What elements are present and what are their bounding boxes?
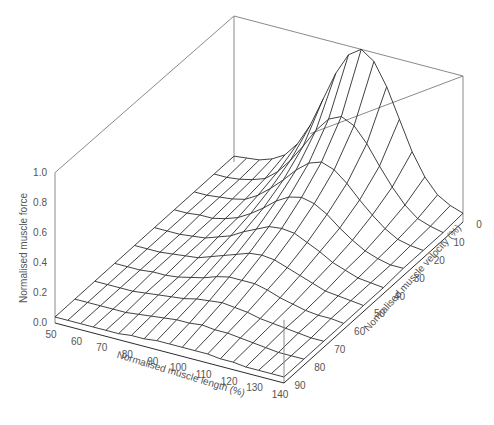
z-tick-label: 0.8: [33, 197, 47, 208]
y-tick-label: 0: [476, 219, 482, 230]
mesh-line-velocity: [174, 197, 403, 268]
mesh-line-length: [182, 49, 361, 347]
x-tick-label: 140: [272, 389, 289, 400]
mesh-line-length: [80, 160, 259, 324]
mesh-line-velocity: [214, 117, 443, 233]
frame-edge: [234, 16, 463, 76]
mesh-line-length: [195, 61, 374, 350]
mesh-line-velocity: [154, 227, 383, 288]
z-tick-label: 0.6: [33, 227, 47, 238]
mesh-line-length: [106, 155, 285, 330]
mesh-line-velocity: [234, 49, 463, 213]
frame-edge: [55, 16, 234, 173]
z-tick-label: 0.4: [33, 257, 47, 268]
z-axis-title: Normalised muscle force: [18, 193, 29, 303]
mesh-line-length: [157, 73, 336, 340]
mesh-line-length: [170, 55, 349, 344]
z-axis-ticks: 0.00.20.40.60.81.0: [33, 167, 47, 328]
x-tick-label: 130: [246, 382, 263, 393]
x-tick-label: 70: [96, 342, 108, 353]
y-tick-label: 80: [314, 362, 326, 373]
y-tick-label: 90: [294, 380, 306, 391]
mesh-line-velocity: [75, 299, 304, 359]
z-tick-label: 1.0: [33, 167, 47, 178]
z-tick-label: 0.2: [33, 287, 47, 298]
mesh-line-length: [271, 206, 450, 374]
z-tick-label: 0.0: [33, 317, 47, 328]
mesh-line-velocity: [95, 281, 324, 341]
surface-plot: 0.00.20.40.60.81.0 506070809010011012013…: [0, 0, 494, 425]
y-tick-label: 10: [454, 237, 466, 248]
surface-mesh: [55, 49, 463, 377]
x-tick-label: 50: [45, 329, 57, 340]
y-tick-label: 70: [334, 344, 346, 355]
x-tick-label: 60: [71, 336, 83, 347]
